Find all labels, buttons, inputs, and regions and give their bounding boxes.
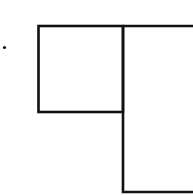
background bbox=[0, 0, 193, 195]
marker-dot bbox=[3, 46, 6, 49]
diagram-canvas bbox=[0, 0, 193, 195]
